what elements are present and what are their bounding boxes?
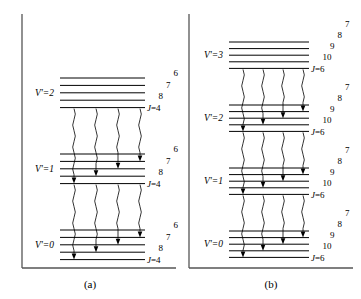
transition-arrowhead: [138, 231, 143, 237]
j-number-label: 7: [345, 82, 350, 92]
panel-a-caption: (a): [0, 278, 180, 290]
transition-arrowhead: [72, 254, 77, 260]
j-number-label: 7: [345, 19, 350, 29]
transition-arrowhead: [281, 238, 286, 244]
transition-wavy-line: [242, 195, 245, 251]
transition-wavy-line: [302, 69, 305, 105]
transition-wavy-line: [117, 109, 120, 163]
j-number-label: 10: [323, 241, 333, 251]
j-base-label: J=6: [311, 253, 325, 263]
transition-wavy-line: [282, 69, 285, 112]
vibrational-block: V'=2J=48765: [35, 57, 180, 113]
transition-arrowhead: [301, 232, 306, 238]
j-number-label: 10: [323, 52, 333, 62]
transitions-group: [241, 69, 306, 257]
transition-arrowhead: [301, 106, 306, 112]
transition-wavy-line: [139, 109, 142, 156]
vibrational-block: V'=0J=48765: [35, 209, 180, 265]
j-number-label: 8: [338, 219, 343, 229]
panel-b: V'=3J=610987V'=2J=610987V'=1J=610987V'=0…: [181, 0, 361, 299]
j-number-label: 7: [166, 80, 171, 90]
transition-wavy-line: [282, 132, 285, 175]
vibrational-level-label: V'=0: [204, 239, 223, 249]
j-base-label: J=6: [311, 127, 325, 137]
transition-arrowhead: [94, 246, 99, 252]
transition-arrowhead: [241, 188, 246, 194]
panel-a: V'=2J=48765V'=1J=48765V'=0J=48765 (a): [0, 0, 180, 299]
j-number-label: 9: [330, 104, 335, 114]
transition-wavy-line: [302, 132, 305, 168]
transition-wavy-line: [117, 185, 120, 239]
j-base-label: J=6: [311, 190, 325, 200]
j-number-label: 7: [166, 232, 171, 242]
transition-wavy-line: [242, 69, 245, 125]
j-number-label: 9: [330, 41, 335, 51]
transition-arrowhead: [301, 169, 306, 175]
j-number-label: 6: [174, 144, 179, 154]
j-number-label: 7: [166, 156, 171, 166]
vibrational-block: V'=1J=48765: [35, 133, 180, 189]
j-number-label: 8: [338, 156, 343, 166]
energy-level-figure: V'=2J=48765V'=1J=48765V'=0J=48765 (a) V'…: [0, 0, 361, 299]
j-number-label: 9: [330, 230, 335, 240]
j-base-label: J=4: [147, 103, 161, 113]
j-base-label: J=6: [311, 64, 325, 74]
j-number-label: 8: [338, 93, 343, 103]
transition-wavy-line: [73, 109, 76, 178]
transition-arrowhead: [138, 155, 143, 161]
panel-b-caption: (b): [181, 278, 361, 290]
vibrational-level-label: V'=2: [204, 113, 223, 123]
transition-arrowhead: [241, 251, 246, 257]
transition-arrowhead: [261, 119, 266, 125]
vibrational-block: V'=1J=610987: [204, 145, 350, 199]
j-number-label: 9: [330, 167, 335, 177]
j-number-label: 6: [174, 220, 179, 230]
transition-arrowhead: [281, 112, 286, 118]
transition-arrowhead: [116, 163, 121, 169]
transition-arrowhead: [72, 178, 77, 184]
j-base-label: J=4: [147, 255, 161, 265]
panel-b-diagram: V'=3J=610987V'=2J=610987V'=1J=610987V'=0…: [181, 0, 361, 299]
j-number-label: 8: [159, 167, 164, 177]
j-number-label: 8: [159, 243, 164, 253]
transition-wavy-line: [242, 132, 245, 188]
transition-arrowhead: [241, 125, 246, 131]
j-base-label: J=4: [147, 179, 161, 189]
panel-a-diagram: V'=2J=48765V'=1J=48765V'=0J=48765: [0, 0, 180, 299]
vibrational-level-label: V'=2: [35, 88, 54, 98]
vibrational-block: V'=2J=610987: [204, 82, 350, 136]
transition-wavy-line: [73, 185, 76, 254]
j-number-label: 7: [345, 208, 350, 218]
vibrational-level-label: V'=3: [204, 50, 223, 60]
vibrational-level-label: V'=1: [35, 164, 54, 174]
j-number-label: 10: [323, 115, 333, 125]
transition-arrowhead: [261, 245, 266, 251]
transition-wavy-line: [282, 195, 285, 238]
j-number-label: 10: [323, 178, 333, 188]
vibrational-block: V'=0J=610987: [204, 208, 350, 262]
transition-arrowhead: [261, 182, 266, 188]
vibrational-block: V'=3J=610987: [204, 19, 350, 73]
transition-wavy-line: [139, 185, 142, 232]
j-number-label: 6: [174, 68, 179, 78]
transition-arrowhead: [281, 175, 286, 181]
j-number-label: 7: [345, 145, 350, 155]
transition-wavy-line: [302, 195, 305, 231]
j-number-label: 8: [159, 91, 164, 101]
vibrational-level-label: V'=0: [35, 240, 54, 250]
transition-arrowhead: [94, 170, 99, 176]
j-number-label: 8: [338, 30, 343, 40]
transition-arrowhead: [116, 239, 121, 245]
vibrational-level-label: V'=1: [204, 176, 223, 186]
